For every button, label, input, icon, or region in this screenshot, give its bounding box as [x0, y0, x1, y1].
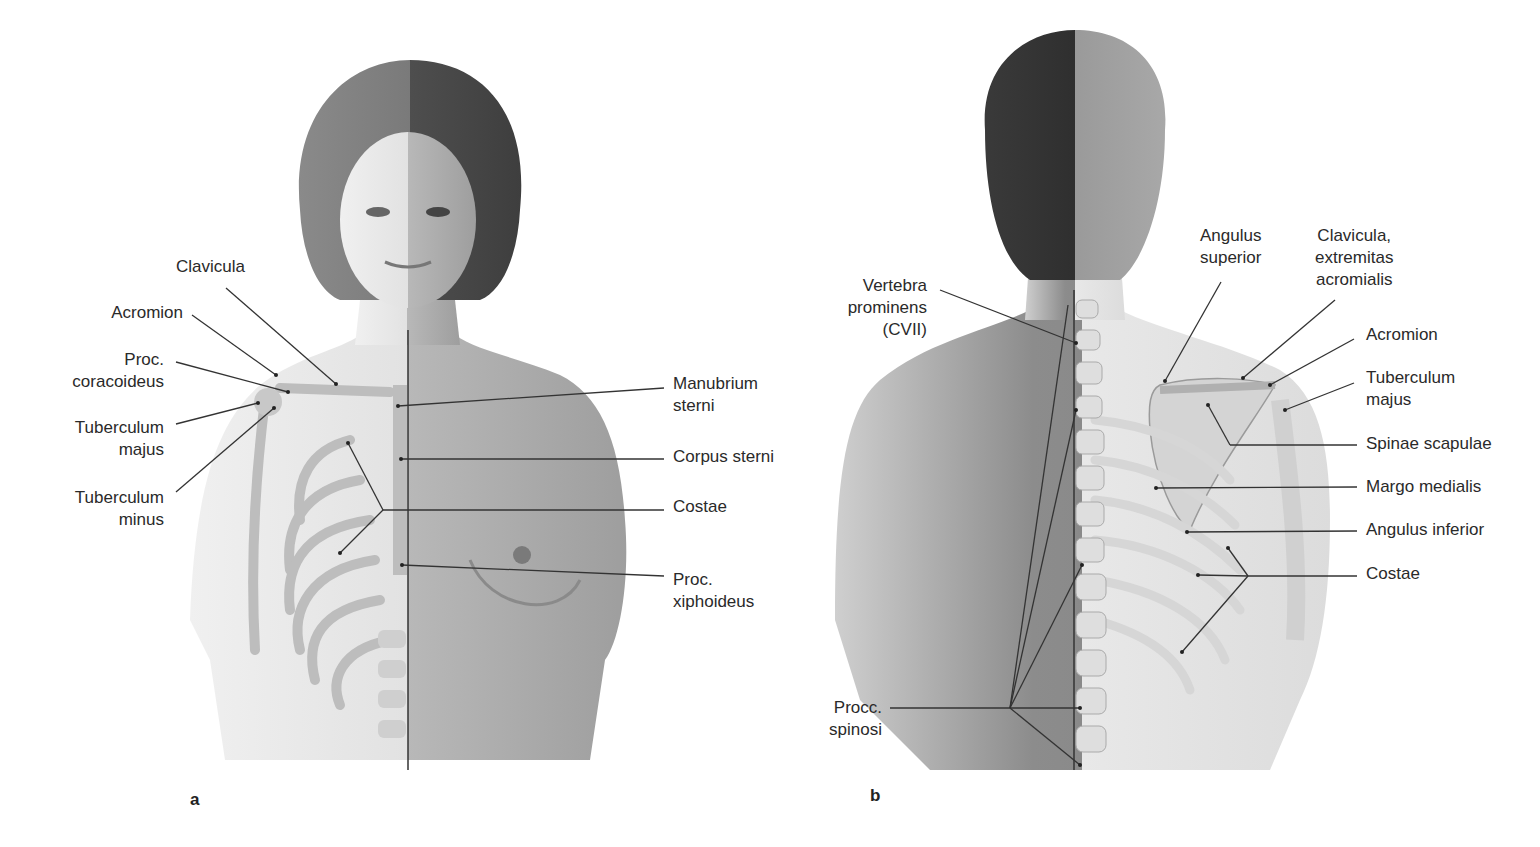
face-shape — [340, 132, 476, 308]
label-acromion: Acromion — [60, 302, 183, 324]
label-clavicula: Clavicula — [150, 256, 245, 278]
label-corpus-sterni: Corpus sterni — [673, 446, 774, 468]
label-angulus-superior: Angulussuperior — [1200, 225, 1261, 269]
spine-of-scapula — [1160, 385, 1275, 390]
label-clavicula-extremitas-acromialis: Clavicula,extremitasacromialis — [1315, 225, 1393, 291]
label-proc-coracoideus: Proc.coracoideus — [50, 349, 164, 393]
label-costae-b: Costae — [1366, 563, 1420, 585]
label-costae: Costae — [673, 496, 727, 518]
label-vertebra-prominens: Vertebraprominens(CVII) — [830, 275, 927, 341]
label-angulus-inferior: Angulus inferior — [1366, 519, 1484, 541]
left-eye — [366, 207, 390, 217]
label-margo-medialis: Margo medialis — [1366, 476, 1481, 498]
posterior-torso-illustration — [800, 0, 1540, 847]
label-tuberculum-majus: Tuberculummajus — [50, 417, 164, 461]
label-tuberculum-majus-b: Tuberculummajus — [1366, 367, 1455, 411]
label-manubrium-sterni: Manubriumsterni — [673, 373, 758, 417]
label-acromion-b: Acromion — [1366, 324, 1438, 346]
nipple — [513, 546, 531, 564]
head-hair-back — [985, 30, 1166, 280]
panel-letter-b: b — [870, 786, 880, 806]
panel-letter-a: a — [190, 790, 199, 810]
label-procc-spinosi: Procc.spinosi — [820, 697, 882, 741]
figure-b-posterior-view: Vertebraprominens(CVII) Procc.spinosi An… — [800, 0, 1540, 847]
sternum — [393, 385, 407, 575]
label-tuberculum-minus: Tuberculumminus — [50, 487, 164, 531]
figure-a-anterior-view: Clavicula Acromion Proc.coracoideus Tube… — [0, 0, 800, 847]
right-eye — [426, 207, 450, 217]
label-proc-xiphoideus: Proc.xiphoideus — [673, 569, 754, 613]
label-spinae-scapulae: Spinae scapulae — [1366, 433, 1492, 455]
